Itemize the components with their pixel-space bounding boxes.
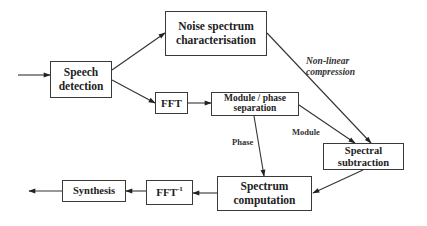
inverse-fft-superscript: -1 [177,185,183,193]
module-edge-label: Module [292,127,320,137]
noise-spectrum-box: Noise spectrum characterisation [165,11,267,56]
inverse-fft-box: FFT-1 [146,180,193,205]
arrow-subtraction-to-computation [313,170,363,193]
inverse-fft-label: FFT [156,186,177,198]
fft-box: FFT [155,92,188,114]
synthesis-label: Synthesis [73,185,115,197]
fft-label: FFT [161,97,182,110]
speech-detection-box: Speech detection [50,61,112,98]
nonlinear-label-2: compression [306,67,355,77]
arrow-speech-to-noise [112,33,165,70]
module-phase-box: Module / phase separation [211,92,299,116]
module-phase-label-1: Module / phase [224,93,286,103]
spectral-subtraction-box: Spectral subtraction [323,143,404,170]
speech-detection-label-1: Speech [64,66,99,78]
spectrum-computation-label-2: computation [234,194,296,206]
phase-edge-label: Phase [232,137,253,147]
spectrum-computation-label-1: Spectrum [241,180,289,192]
synthesis-box: Synthesis [62,180,126,202]
spectral-subtraction-label-2: subtraction [338,157,389,168]
spectral-subtraction-label-1: Spectral [345,145,382,156]
speech-detection-label-2: detection [59,80,104,92]
spectrum-computation-box: Spectrum computation [217,176,312,211]
arrow-speech-to-fft [112,80,155,103]
nonlinear-compression-label: Non-linear compression [306,56,355,79]
module-phase-label-2: separation [234,103,277,113]
noise-spectrum-label-2: characterisation [176,34,256,46]
arrow-phase-to-computation [254,116,264,176]
arrow-module-to-subtraction [299,105,355,143]
noise-spectrum-label-1: Noise spectrum [178,20,254,32]
nonlinear-label-1: Non-linear [306,56,349,66]
